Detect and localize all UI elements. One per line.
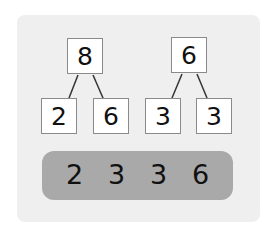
tree-2-root: 6 <box>171 37 207 73</box>
result-bar: 2 3 3 6 <box>42 151 233 200</box>
tree-2-left-child: 3 <box>145 98 181 134</box>
result-number: 2 <box>66 160 83 190</box>
result-number: 3 <box>108 160 125 190</box>
tree-1-left-child: 2 <box>41 98 77 134</box>
tree-1-root: 8 <box>67 38 103 74</box>
tree-2-right-child: 3 <box>196 98 232 134</box>
result-number: 6 <box>192 160 209 190</box>
result-number: 3 <box>150 160 167 190</box>
tree-1-right-child: 6 <box>93 98 129 134</box>
